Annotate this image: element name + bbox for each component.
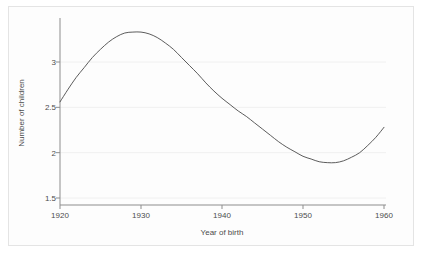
tick-marks [56, 62, 384, 209]
data-series [60, 32, 384, 163]
axis-lines [60, 18, 386, 205]
y-tick-label: 2.5 [34, 103, 56, 112]
figure: 1.522.53 19201930194019501960 Number of … [0, 0, 424, 256]
x-axis-title: Year of birth [201, 228, 244, 237]
y-tick-label: 2 [34, 148, 56, 157]
y-tick-label: 3 [34, 58, 56, 67]
x-tick-label: 1920 [51, 211, 69, 220]
y-axis-title: Number of children [17, 79, 26, 147]
x-tick-label: 1960 [375, 211, 393, 220]
plot-region: 1.522.53 19201930194019501960 [0, 0, 424, 256]
gridlines [60, 62, 386, 198]
series-line-0 [60, 32, 384, 163]
x-tick-label: 1950 [294, 211, 312, 220]
x-tick-label: 1940 [213, 211, 231, 220]
x-tick-label: 1930 [132, 211, 150, 220]
y-tick-label: 1.5 [34, 194, 56, 203]
